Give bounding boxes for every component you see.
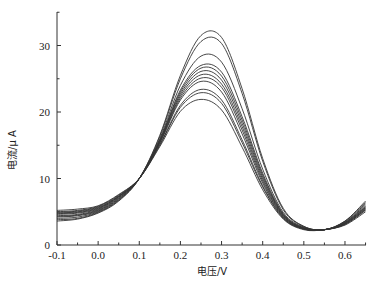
y-axis-title: 电流/μ A — [6, 130, 18, 170]
x-tick-label: 0.3 — [215, 249, 229, 261]
x-tick-label: 0.6 — [338, 249, 352, 261]
y-ticks: 0102030 — [39, 12, 61, 251]
y-tick-label: 0 — [45, 239, 51, 251]
x-axis-title: 电压/V — [197, 265, 227, 277]
x-tick-label: 0.0 — [91, 249, 105, 261]
x-ticks: -0.10.00.10.20.30.40.50.6 — [48, 241, 365, 261]
voltammetry-curve-1 — [57, 31, 366, 230]
x-tick-label: 0.1 — [132, 249, 146, 261]
voltammetry-curve-7 — [57, 74, 366, 230]
x-tick-label: 0.5 — [297, 249, 311, 261]
y-tick-label: 30 — [39, 40, 51, 52]
voltammetry-chart: -0.10.00.10.20.30.40.50.6 0102030 电压/V 电… — [0, 0, 380, 291]
x-tick-label: -0.1 — [48, 249, 65, 261]
y-tick-label: 20 — [39, 106, 51, 118]
voltammetry-curve-2 — [57, 37, 366, 230]
curves-group — [57, 31, 366, 231]
y-tick-label: 10 — [39, 173, 51, 185]
x-tick-label: 0.2 — [174, 249, 188, 261]
x-tick-label: 0.4 — [256, 249, 270, 261]
